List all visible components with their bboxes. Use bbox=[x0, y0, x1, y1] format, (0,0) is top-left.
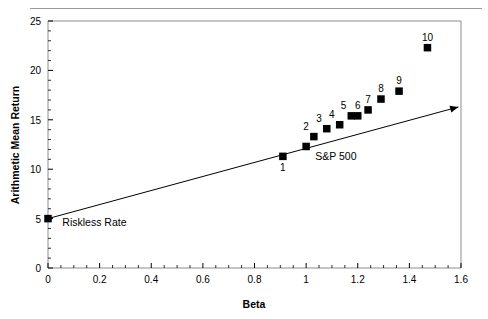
x-tick-label: 1 bbox=[303, 274, 309, 285]
data-point-marker bbox=[310, 133, 318, 141]
x-tick-label: 0.6 bbox=[196, 274, 210, 285]
y-tick-label: 20 bbox=[30, 65, 42, 76]
data-point-label: 4 bbox=[329, 109, 335, 120]
data-point-marker bbox=[354, 112, 362, 120]
security-market-line bbox=[48, 106, 458, 219]
x-tick-label: 1.4 bbox=[402, 274, 416, 285]
data-point-markers bbox=[44, 44, 431, 222]
plot-annotations: Riskless RateS&P 500 bbox=[62, 150, 356, 227]
data-point-marker bbox=[377, 95, 385, 103]
data-point-labels: 12345678910 bbox=[280, 32, 433, 173]
data-point-label: 5 bbox=[341, 100, 347, 111]
data-point-label: 9 bbox=[396, 75, 402, 86]
x-axis-title: Beta bbox=[243, 298, 266, 310]
data-point-label: 3 bbox=[316, 113, 322, 124]
x-tick-label: 1.6 bbox=[454, 274, 468, 285]
x-axis-ticks bbox=[48, 263, 461, 268]
data-point-marker bbox=[348, 112, 356, 120]
y-tick-label: 5 bbox=[35, 214, 41, 225]
y-tick-label: 25 bbox=[30, 16, 42, 27]
x-tick-label: 0.4 bbox=[144, 274, 158, 285]
plot-annotation: Riskless Rate bbox=[62, 216, 126, 228]
x-tick-label: 1.2 bbox=[351, 274, 365, 285]
y-tick-label: 10 bbox=[30, 164, 42, 175]
data-point-marker bbox=[424, 44, 432, 52]
y-axis-title: Arithmetic Mean Return bbox=[9, 86, 21, 204]
sml-arrowhead bbox=[449, 106, 458, 113]
x-tick-label: 0.8 bbox=[248, 274, 262, 285]
data-point-label: 6 bbox=[355, 100, 361, 111]
scatter-plot-svg: 00.20.40.60.811.21.41.6 0510152025 12345… bbox=[0, 0, 488, 319]
x-axis-tick-labels: 00.20.40.60.811.21.41.6 bbox=[45, 274, 468, 285]
data-point-marker bbox=[279, 153, 287, 161]
x-tick-label: 0 bbox=[45, 274, 51, 285]
plot-frame bbox=[48, 21, 461, 268]
sml-line-segment bbox=[48, 107, 458, 219]
data-point-label: 8 bbox=[378, 83, 384, 94]
data-point-label: 10 bbox=[422, 32, 434, 43]
chart-figure: 00.20.40.60.811.21.41.6 0510152025 12345… bbox=[0, 0, 488, 319]
y-axis-tick-labels: 0510152025 bbox=[30, 16, 42, 274]
y-axis-ticks bbox=[48, 21, 53, 268]
data-point-marker bbox=[323, 125, 331, 133]
x-tick-label: 0.2 bbox=[93, 274, 107, 285]
data-point-label: 7 bbox=[365, 94, 371, 105]
data-point-marker bbox=[336, 121, 344, 128]
data-point-label: 2 bbox=[303, 121, 309, 132]
data-point-marker bbox=[364, 106, 372, 114]
data-point-marker bbox=[44, 215, 52, 223]
y-tick-label: 15 bbox=[30, 115, 42, 126]
plot-annotation: S&P 500 bbox=[315, 150, 356, 162]
data-point-label: 1 bbox=[280, 162, 286, 173]
data-point-marker bbox=[395, 87, 403, 95]
data-point-marker bbox=[302, 143, 310, 151]
y-tick-label: 0 bbox=[35, 263, 41, 274]
